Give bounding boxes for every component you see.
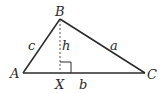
triangle-diagram: B A C X c a b h (0, 0, 165, 93)
vertex-label-a: A (9, 66, 19, 81)
foot-label-x: X (54, 77, 65, 92)
side-label-a: a (110, 38, 118, 53)
side-a (60, 19, 145, 73)
right-angle-marker (60, 62, 71, 73)
vertex-label-c: C (147, 67, 157, 82)
altitude-label-h: h (62, 38, 70, 53)
vertex-label-b: B (54, 4, 65, 19)
side-label-b: b (79, 77, 87, 92)
side-label-c: c (28, 38, 36, 53)
